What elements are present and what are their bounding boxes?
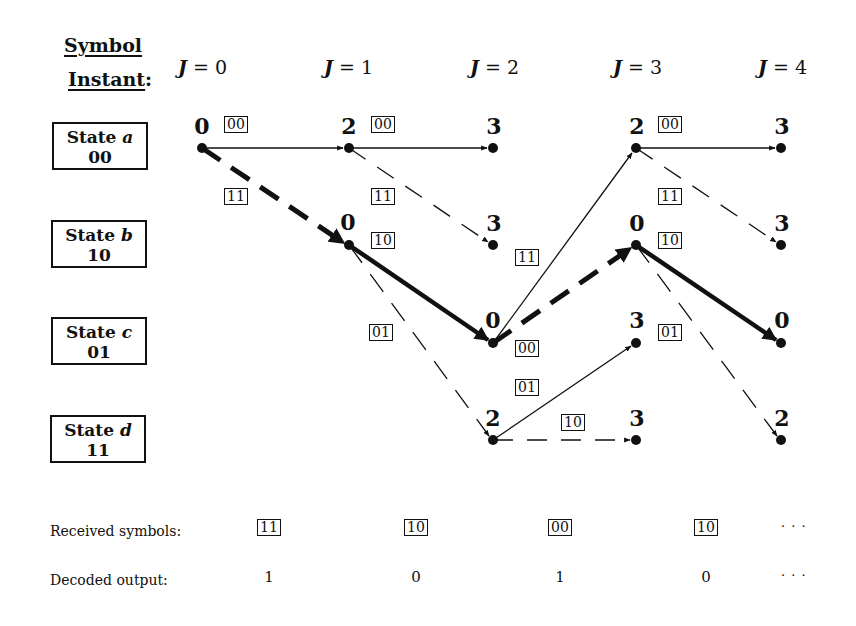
branch-label-j3-b-d: 01 (658, 324, 682, 341)
metric-j3-a: 2 (629, 113, 644, 139)
node-j4-c (776, 338, 786, 348)
branch-label-j2-c-a: 11 (515, 249, 539, 266)
decoded-bit-4: 0 (701, 568, 711, 586)
metric-j1-b: 0 (340, 209, 355, 235)
node-j0-a (197, 143, 207, 153)
node-j3-d (631, 435, 641, 445)
received-ellipsis: · · · (781, 519, 807, 534)
received-symbol-4: 10 (694, 519, 718, 536)
node-j1-a (344, 143, 354, 153)
branch-label-j0-a-a: 00 (224, 116, 248, 133)
edge-j2-c-a (493, 153, 632, 343)
metric-j3-b: 0 (629, 210, 644, 236)
node-j3-a (631, 143, 641, 153)
node-j4-b (776, 240, 786, 250)
received-symbol-3: 00 (548, 519, 572, 536)
metric-j1-a: 2 (341, 113, 356, 139)
branch-label-j2-d-d: 10 (561, 414, 585, 431)
viterbi-trellis-diagram: Symbol Instant: J = 0 J = 1 J = 2 J = 3 … (0, 0, 856, 626)
edge-j3-a-b (636, 148, 776, 242)
decoded-ellipsis: · · · (781, 568, 807, 583)
decoded-output-label: Decoded output: (50, 572, 168, 588)
node-j2-d (488, 435, 498, 445)
branch-label-j3-a-b: 11 (658, 188, 682, 205)
metric-j4-b: 3 (774, 210, 789, 236)
branch-label-j1-b-c: 10 (371, 232, 395, 249)
node-j4-a (776, 143, 786, 153)
node-j4-d (776, 435, 786, 445)
metric-j4-d: 2 (774, 405, 789, 431)
branch-label-j2-d-c: 01 (515, 379, 539, 396)
metric-j3-d: 3 (629, 405, 644, 431)
edge-j2-c-b-survivor (493, 248, 631, 343)
received-symbol-1: 11 (257, 519, 281, 536)
branch-label-j3-a-a: 00 (658, 116, 682, 133)
node-j3-b (631, 240, 641, 250)
branch-label-j2-c-b: 00 (515, 340, 539, 357)
branch-label-j0-a-b: 11 (224, 188, 248, 205)
received-symbols-label: Received symbols: (50, 523, 181, 539)
branch-label-j1-a-b: 11 (371, 188, 395, 205)
edge-j1-a-b (349, 148, 488, 242)
metric-j2-d: 2 (485, 405, 500, 431)
node-j2-a (488, 143, 498, 153)
metric-j2-b: 3 (486, 210, 501, 236)
node-j2-c (488, 338, 498, 348)
decoded-bit-1: 1 (264, 568, 274, 586)
decoded-bit-2: 0 (411, 568, 421, 586)
received-symbol-2: 10 (404, 519, 428, 536)
node-j3-c (631, 338, 641, 348)
metric-j4-a: 3 (774, 113, 789, 139)
decoded-bit-3: 1 (555, 568, 565, 586)
metric-j0-a: 0 (194, 113, 209, 139)
branch-label-j1-b-d: 01 (369, 324, 393, 341)
node-j1-b (344, 240, 354, 250)
metric-j3-c: 3 (629, 307, 644, 333)
node-j2-b (488, 240, 498, 250)
branch-label-j1-a-a: 00 (371, 116, 395, 133)
edge-j3-b-c-survivor (636, 245, 776, 340)
metric-j2-c: 0 (485, 307, 500, 333)
metric-j2-a: 3 (486, 113, 501, 139)
branch-label-j3-b-c: 10 (658, 232, 682, 249)
metric-j4-c: 0 (774, 307, 789, 333)
